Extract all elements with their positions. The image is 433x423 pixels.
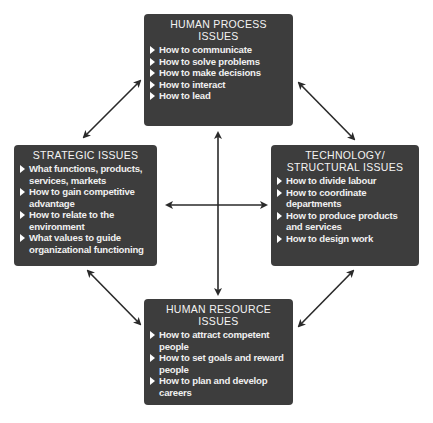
bullet-triangle-icon bbox=[150, 92, 155, 100]
box-title: STRATEGIC ISSUES bbox=[20, 149, 151, 161]
item-text: How to attract competent people bbox=[159, 329, 269, 352]
arrow-bottom-left bbox=[88, 271, 140, 324]
arrow-bottom-right bbox=[299, 271, 353, 326]
list-item: How to interact bbox=[150, 79, 287, 91]
item-text: How to produce products and services bbox=[286, 210, 398, 233]
bullet-triangle-icon bbox=[20, 234, 25, 242]
list-item: How to make decisions bbox=[150, 67, 287, 79]
bullet-triangle-icon bbox=[150, 58, 155, 66]
bullet-triangle-icon bbox=[277, 177, 282, 185]
bullet-triangle-icon bbox=[150, 69, 155, 77]
list-item: How to plan and develop careers bbox=[150, 375, 287, 398]
bullet-triangle-icon bbox=[150, 331, 155, 339]
list-item: How to communicate bbox=[150, 44, 287, 56]
item-text: How to plan and develop careers bbox=[159, 375, 267, 398]
strategic-issues-box: STRATEGIC ISSUES What functions, product… bbox=[14, 145, 157, 266]
bullet-triangle-icon bbox=[150, 377, 155, 385]
item-text: How to solve problems bbox=[159, 56, 260, 67]
box-title: HUMAN PROCESS ISSUES bbox=[150, 18, 287, 42]
title-line: STRATEGIC ISSUES bbox=[20, 149, 151, 161]
bullet-triangle-icon bbox=[150, 81, 155, 89]
title-line: HUMAN RESOURCE bbox=[150, 303, 287, 315]
item-text: How to lead bbox=[159, 90, 211, 101]
list-item: How to produce products and services bbox=[277, 210, 413, 233]
item-text: How to divide labour bbox=[286, 175, 376, 186]
bullet-triangle-icon bbox=[20, 165, 25, 173]
organizational-issues-diagram: HUMAN PROCESS ISSUES How to communicate … bbox=[0, 0, 433, 423]
box-title: HUMAN RESOURCE ISSUES bbox=[150, 303, 287, 327]
item-text: How to coordinate departments bbox=[286, 187, 366, 210]
list-item: How to gain competitive advantage bbox=[20, 186, 151, 209]
list-item: How to relate to the environment bbox=[20, 209, 151, 232]
human-resource-issues-box: HUMAN RESOURCE ISSUES How to attract com… bbox=[144, 299, 293, 405]
technology-structural-issues-box: TECHNOLOGY/ STRUCTURAL ISSUES How to div… bbox=[271, 145, 419, 266]
issue-list: How to attract competent people How to s… bbox=[150, 329, 287, 398]
bullet-triangle-icon bbox=[20, 188, 25, 196]
list-item: What values to guide organizational func… bbox=[20, 232, 151, 255]
list-item: How to attract competent people bbox=[150, 329, 287, 352]
bullet-triangle-icon bbox=[277, 235, 282, 243]
title-line: HUMAN PROCESS bbox=[150, 18, 287, 30]
item-text: How to make decisions bbox=[159, 67, 261, 78]
issue-list: What functions, products, services, mark… bbox=[20, 163, 151, 255]
arrow-top-right bbox=[299, 83, 354, 139]
item-text: What functions, products, services, mark… bbox=[29, 163, 142, 186]
item-text: What values to guide organizational func… bbox=[29, 232, 144, 255]
title-line: TECHNOLOGY/ bbox=[277, 149, 413, 161]
item-text: How to interact bbox=[159, 79, 225, 90]
list-item: How to design work bbox=[277, 233, 413, 245]
list-item: How to lead bbox=[150, 90, 287, 102]
item-text: How to communicate bbox=[159, 44, 252, 55]
list-item: How to solve problems bbox=[150, 56, 287, 68]
human-process-issues-box: HUMAN PROCESS ISSUES How to communicate … bbox=[144, 14, 293, 126]
list-item: How to divide labour bbox=[277, 175, 413, 187]
issue-list: How to communicate How to solve problems… bbox=[150, 44, 287, 102]
bullet-triangle-icon bbox=[277, 212, 282, 220]
item-text: How to set goals and reward people bbox=[159, 352, 284, 375]
item-text: How to design work bbox=[286, 233, 373, 244]
item-text: How to gain competitive advantage bbox=[29, 186, 135, 209]
bullet-triangle-icon bbox=[150, 354, 155, 362]
title-line: STRUCTURAL ISSUES bbox=[277, 161, 413, 173]
list-item: How to set goals and reward people bbox=[150, 352, 287, 375]
title-line: ISSUES bbox=[150, 30, 287, 42]
bullet-triangle-icon bbox=[20, 211, 25, 219]
list-item: What functions, products, services, mark… bbox=[20, 163, 151, 186]
title-line: ISSUES bbox=[150, 315, 287, 327]
item-text: How to relate to the environment bbox=[29, 209, 114, 232]
list-item: How to coordinate departments bbox=[277, 187, 413, 210]
bullet-triangle-icon bbox=[277, 189, 282, 197]
bullet-triangle-icon bbox=[150, 46, 155, 54]
box-title: TECHNOLOGY/ STRUCTURAL ISSUES bbox=[277, 149, 413, 173]
arrow-top-left bbox=[84, 81, 140, 137]
issue-list: How to divide labour How to coordinate d… bbox=[277, 175, 413, 244]
